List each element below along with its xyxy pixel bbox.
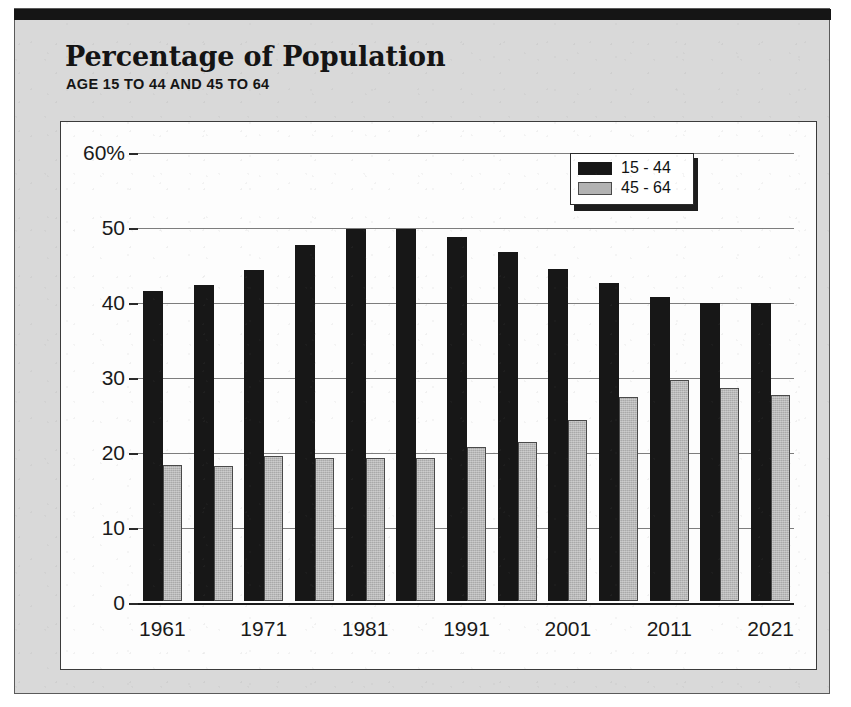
scanned-page: Percentage of Population AGE 15 TO 44 AN… [0,0,851,707]
y-axis-label: 20 [63,441,125,465]
legend-swatch-icon [578,182,612,195]
y-axis-label: 50 [63,216,125,240]
x-axis-label: 1961 [139,617,186,641]
legend-item: 15 - 44 [578,160,671,176]
chart-subtitle: AGE 15 TO 44 AND 45 TO 64 [66,75,765,93]
x-axis-label: 2021 [747,617,794,641]
y-axis-label: 10 [63,516,125,540]
figure-frame: Percentage of Population AGE 15 TO 44 AN… [14,8,830,694]
x-axis-label: 1991 [443,617,490,641]
legend-item: 45 - 64 [578,180,671,196]
page-title: Percentage of Population [65,42,765,72]
y-axis-label: 60% [63,141,125,165]
chart-panel: 0102030405060% 1961197119811991200120112… [60,121,817,670]
x-axis-label: 2001 [545,617,592,641]
plot-area: 0102030405060% 1961197119811991200120112… [61,122,816,669]
legend-box: 15 - 4445 - 64 [570,153,694,205]
chart-header: Percentage of Population AGE 15 TO 44 AN… [65,42,765,93]
legend-label: 15 - 44 [621,159,671,177]
legend-label: 45 - 64 [621,179,671,197]
legend: 15 - 4445 - 64 [570,153,698,209]
y-axis-label: 30 [63,366,125,390]
top-rule [14,9,831,20]
y-axis-labels: 0102030405060% [61,122,125,671]
y-axis-label: 40 [63,291,125,315]
y-axis-label: 0 [63,591,125,615]
x-axis-label: 1971 [240,617,287,641]
legend-swatch-icon [578,162,612,175]
x-axis-label: 2011 [647,617,692,641]
x-axis-label: 1981 [342,617,389,641]
